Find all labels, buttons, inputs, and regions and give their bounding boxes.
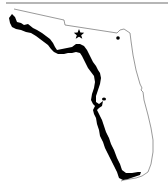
coast-detail xyxy=(102,98,106,101)
florida-map xyxy=(0,0,168,191)
gulf-coast-highlight xyxy=(9,14,141,180)
city-dot-icon xyxy=(116,36,120,40)
star-icon xyxy=(74,29,84,39)
